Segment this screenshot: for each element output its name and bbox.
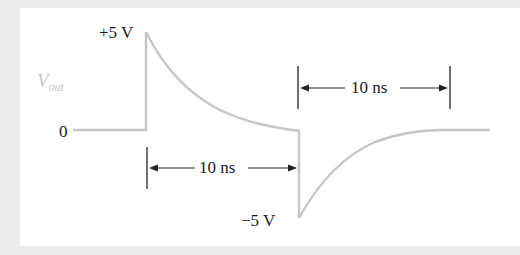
vout-waveform bbox=[73, 32, 490, 218]
dimension-bottom-label: 10 ns bbox=[199, 159, 235, 176]
vout-subscript: out bbox=[49, 80, 64, 94]
vout-symbol: V bbox=[37, 70, 49, 91]
dimension-top-label: 10 ns bbox=[351, 79, 387, 96]
negative-peak-label: −5 V bbox=[241, 212, 275, 229]
zero-label: 0 bbox=[59, 123, 68, 140]
vout-axis-label: Vout bbox=[37, 70, 64, 95]
positive-peak-label: +5 V bbox=[99, 24, 133, 41]
